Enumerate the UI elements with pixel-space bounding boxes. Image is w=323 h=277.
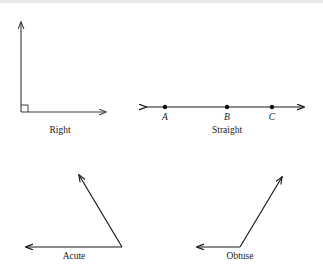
obtuse-angle-label: Obtuse	[227, 251, 254, 261]
acute-angle-upper-ray	[79, 175, 122, 247]
straight-point-c-label: C	[269, 112, 276, 122]
angles-figure: Right A B C Straight Acute Obtuse	[0, 0, 323, 277]
panel-right-angle: Right	[21, 22, 106, 135]
panel-straight-angle: A B C Straight	[146, 105, 304, 135]
straight-angle-label: Straight	[212, 125, 242, 135]
top-edge-band	[0, 0, 323, 3]
straight-point-a-dot	[163, 105, 167, 109]
straight-point-c-dot	[270, 105, 274, 109]
straight-point-b-dot	[225, 105, 229, 109]
right-angle-label: Right	[49, 125, 70, 135]
straight-point-a-label: A	[161, 112, 168, 122]
angles-diagram-svg: Right A B C Straight Acute Obtuse	[0, 0, 323, 277]
right-angle-square-icon	[21, 105, 28, 112]
straight-point-b-label: B	[224, 112, 230, 122]
panel-obtuse-angle: Obtuse	[197, 177, 282, 261]
obtuse-angle-upper-ray	[240, 177, 282, 247]
acute-angle-label: Acute	[63, 251, 86, 261]
panel-acute-angle: Acute	[26, 175, 122, 261]
